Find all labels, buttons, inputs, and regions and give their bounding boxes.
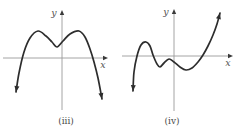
- chart-iv: x y (iv): [122, 6, 233, 126]
- figure-canvas: x y (iii) x y (iv): [0, 0, 238, 139]
- caption: (iv): [165, 116, 180, 126]
- curve: [16, 31, 102, 99]
- x-axis-label: x: [100, 59, 106, 70]
- curve-end-arrowhead: [216, 13, 221, 19]
- chart-iii: x y (iii): [3, 7, 108, 126]
- curve-start-arrowhead: [131, 85, 136, 91]
- y-axis-arrowhead: [60, 10, 64, 15]
- y-axis-arrowhead: [172, 9, 176, 14]
- x-axis-label: x: [225, 57, 231, 68]
- caption: (iii): [58, 116, 74, 126]
- curve: [133, 13, 220, 91]
- figure: x y (iii) x y (iv): [0, 0, 238, 139]
- y-axis-label: y: [50, 7, 57, 18]
- y-axis-label: y: [162, 6, 169, 17]
